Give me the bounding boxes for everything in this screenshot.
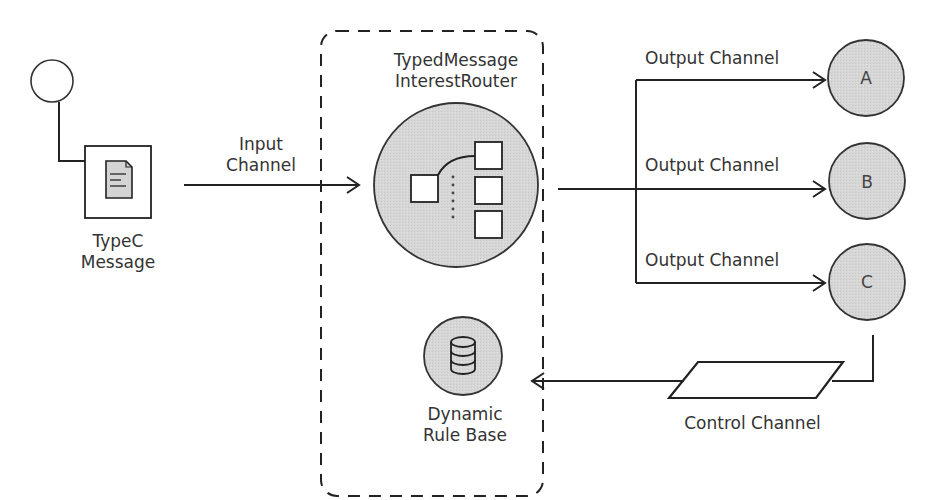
- endpoint-circle: [31, 60, 73, 102]
- typec-label-line1: TypeC: [58, 231, 178, 252]
- router-circle: [374, 103, 538, 267]
- router-label-line1: TypedMessage: [370, 50, 542, 71]
- input-channel-arrow: [184, 177, 359, 193]
- typec-message-label: TypeC Message: [58, 231, 178, 273]
- output-channel-label-c: Output Channel: [645, 250, 779, 271]
- output-channel-label-b: Output Channel: [645, 155, 779, 176]
- input-channel-line2: Channel: [206, 155, 316, 176]
- control-channel-label: Control Channel: [660, 413, 845, 434]
- output-node-b-label: B: [852, 172, 882, 192]
- rule-base-line1: Dynamic: [400, 404, 530, 425]
- endpoint-connector: [59, 102, 85, 161]
- control-connector: [832, 335, 873, 381]
- input-channel-line1: Input: [206, 134, 316, 155]
- router-label: TypedMessage InterestRouter: [370, 50, 542, 92]
- message-endpoint: [31, 60, 85, 161]
- router-label-line2: InterestRouter: [370, 71, 542, 92]
- document-icon: [106, 161, 132, 198]
- rule-base-node[interactable]: [424, 317, 502, 395]
- control-channel-parallelogram[interactable]: [669, 362, 843, 398]
- rule-base-label: Dynamic Rule Base: [400, 404, 530, 446]
- typec-message-node[interactable]: [85, 146, 151, 218]
- input-channel-label: Input Channel: [206, 134, 316, 176]
- control-channel: [532, 335, 873, 398]
- typec-label-line2: Message: [58, 252, 178, 273]
- rule-base-line2: Rule Base: [400, 425, 530, 446]
- output-node-c-label: C: [852, 272, 882, 292]
- router-node[interactable]: [374, 103, 538, 267]
- output-node-a-label: A: [851, 68, 881, 88]
- output-channel-label-a: Output Channel: [645, 48, 779, 69]
